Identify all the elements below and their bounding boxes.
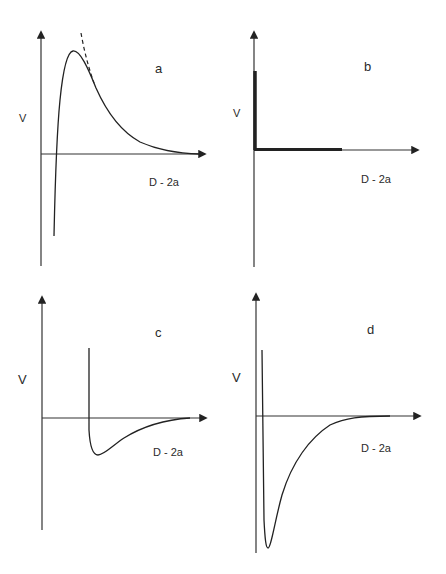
panel-d-y-axis-label: V <box>232 370 241 385</box>
panel-b-y-axis-label: V <box>233 107 240 119</box>
panel-a-dashed-asymptote <box>81 33 94 83</box>
panel-a-label: a <box>155 61 162 76</box>
panel-c <box>42 297 206 530</box>
panel-c-y-axis-label: V <box>18 372 27 387</box>
panel-c-label: c <box>155 325 162 340</box>
panel-a-x-axis-label: D - 2a <box>149 176 179 188</box>
panel-b-label: b <box>364 59 371 74</box>
panel-a-y-axis-label: V <box>19 112 26 124</box>
panel-d-label: d <box>367 322 374 337</box>
figure-canvas <box>0 0 446 574</box>
panel-a-curve <box>54 51 200 236</box>
panel-a <box>41 32 205 266</box>
panel-c-curve <box>89 348 190 455</box>
panel-d-x-axis-label: D - 2a <box>361 442 391 454</box>
panel-b-x-axis-label: D - 2a <box>361 173 391 185</box>
panel-b <box>254 32 418 267</box>
panel-c-x-axis-label: D - 2a <box>153 446 183 458</box>
panel-d <box>256 294 420 553</box>
